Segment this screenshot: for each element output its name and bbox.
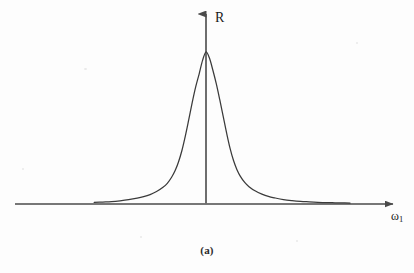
- resonance-figure: R ω1 (a): [0, 0, 414, 273]
- y-axis-label: R: [215, 11, 224, 25]
- resonance-curve: [94, 52, 350, 203]
- plot-canvas: [0, 0, 414, 273]
- x-axis-label: ω1: [391, 210, 403, 224]
- x-axis-label-subscript: 1: [399, 214, 403, 224]
- x-axis-label-symbol: ω: [391, 209, 399, 223]
- figure-caption: (a): [0, 244, 414, 256]
